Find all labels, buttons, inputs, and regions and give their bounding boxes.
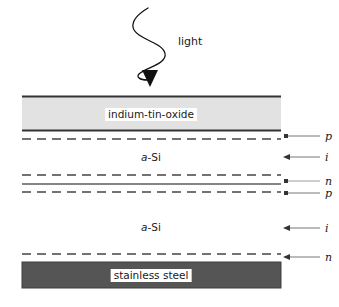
doping-arrow-n2 xyxy=(283,254,320,260)
down-arrowhead-icon xyxy=(142,70,158,87)
diagram-canvas xyxy=(0,0,339,307)
a-si-top-caption: a-Si xyxy=(141,152,161,163)
doping-label-n-bottom: n xyxy=(325,251,332,264)
doping-arrow-i1 xyxy=(283,154,320,160)
a-si-top-caption-rest: -Si xyxy=(148,151,161,163)
doping-arrow-i2 xyxy=(283,225,320,231)
ito-caption: indium-tin-oxide xyxy=(105,108,197,121)
light-wave-group xyxy=(133,8,165,87)
doping-arrow-p1 xyxy=(284,134,320,138)
a-si-bottom-caption-rest: -Si xyxy=(148,221,161,233)
stainless-steel-caption: stainless steel xyxy=(111,269,192,282)
a-si-bottom-caption: a-Si xyxy=(141,222,161,233)
doping-label-p-top: p xyxy=(325,130,332,143)
sine-wave-icon xyxy=(133,8,165,80)
doping-arrow-n1 xyxy=(284,179,320,183)
solar-cell-diagram: light indium-tin-oxide a-Si a-Si stainle… xyxy=(0,0,339,307)
doping-arrow-p2 xyxy=(284,191,320,195)
doping-label-i-bottom: i xyxy=(325,222,329,235)
doping-label-p-mid: p xyxy=(325,187,332,200)
doping-label-i-top: i xyxy=(325,151,329,164)
doping-arrow-group xyxy=(283,134,320,260)
light-label: light xyxy=(178,36,202,47)
